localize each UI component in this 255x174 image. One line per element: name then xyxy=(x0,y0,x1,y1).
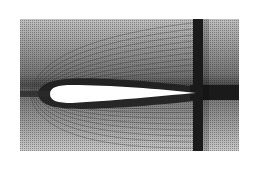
upstream-line xyxy=(20,91,50,97)
mesh-domain xyxy=(20,19,239,151)
airfoil-mesh-figure xyxy=(0,0,255,174)
vertical-refinement-band xyxy=(193,19,203,151)
